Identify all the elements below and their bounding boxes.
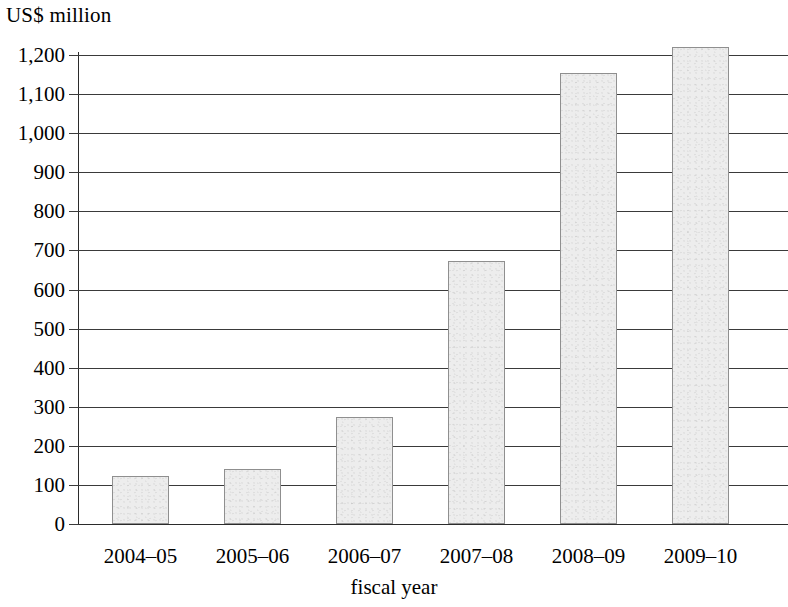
y-axis-tick-mark — [69, 55, 79, 56]
x-axis-tick-label: 2005–06 — [216, 545, 290, 567]
plot-area: 01002003004005006007008009001,0001,1001,… — [78, 55, 788, 524]
y-axis-tick-mark — [69, 250, 79, 251]
y-axis-tick-mark — [69, 407, 79, 408]
y-axis-tick-mark — [69, 94, 79, 95]
x-axis-tick-label: 2008–09 — [552, 545, 626, 567]
y-axis-line — [78, 52, 79, 524]
y-axis-tick-label: 300 — [34, 396, 66, 417]
y-axis-tick-label: 600 — [34, 279, 66, 300]
x-axis-tick-label: 2004–05 — [104, 545, 178, 567]
y-axis-tick-mark — [69, 329, 79, 330]
x-axis-tick-label: 2009–10 — [664, 545, 738, 567]
y-axis-tick-mark — [69, 133, 79, 134]
y-axis-tick-label: 100 — [34, 474, 66, 495]
x-axis-tick-label: 2007–08 — [440, 545, 514, 567]
gridline — [78, 524, 788, 525]
y-axis-title: US$ million — [6, 2, 111, 28]
y-axis-tick-label: 1,200 — [18, 45, 65, 66]
y-axis-tick-label: 400 — [34, 357, 66, 378]
bar-2007–08 — [448, 261, 505, 524]
y-axis-tick-mark — [69, 485, 79, 486]
y-axis-tick-label: 500 — [34, 318, 66, 339]
y-axis-tick-label: 700 — [34, 240, 66, 261]
y-axis-tick-label: 1,100 — [18, 84, 65, 105]
bar-2008–09 — [560, 73, 617, 524]
y-axis-tick-label: 1,000 — [18, 123, 65, 144]
y-axis-tick-mark — [69, 211, 79, 212]
y-axis-tick-mark — [69, 290, 79, 291]
x-axis-title: fiscal year — [0, 576, 788, 598]
y-axis-tick-mark — [69, 524, 79, 525]
bar-2009–10 — [672, 47, 729, 524]
x-axis-tick-label: 2006–07 — [328, 545, 402, 567]
y-axis-tick-mark — [69, 446, 79, 447]
y-axis-tick-label: 200 — [34, 435, 66, 456]
y-axis-tick-label: 800 — [34, 201, 66, 222]
y-axis-tick-label: 900 — [34, 162, 66, 183]
bar-2005–06 — [224, 469, 281, 524]
y-axis-tick-label: 0 — [55, 514, 66, 535]
y-axis-tick-mark — [69, 172, 79, 173]
y-axis-tick-mark — [69, 368, 79, 369]
bar-2004–05 — [112, 476, 169, 524]
bar-chart-figure: US$ million 0100200300400500600700800900… — [0, 0, 788, 607]
bar-2006–07 — [336, 417, 393, 524]
